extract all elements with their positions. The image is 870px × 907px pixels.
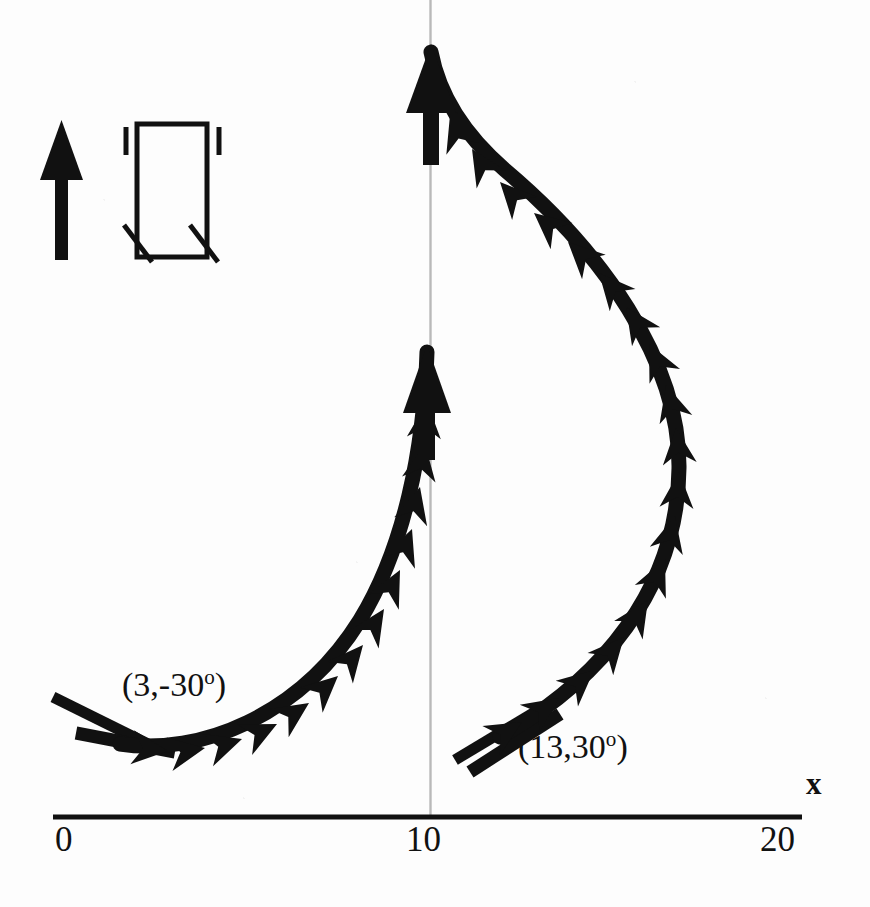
- x-tick-label-10: 10: [406, 822, 441, 857]
- arrowhead-chain-lower: [130, 401, 444, 771]
- left-annotation-prefix: (3,-30: [122, 666, 204, 703]
- figure-root: 0 10 20 x (3,-30o) (13,30o): [0, 0, 870, 907]
- right-annotation-prefix: (13,30: [518, 728, 606, 765]
- x-tick-label-0: 0: [55, 822, 73, 857]
- left-annotation-suffix: ): [215, 666, 226, 703]
- x-axis-label: x: [806, 768, 822, 799]
- degree-symbol-left: o: [204, 665, 215, 689]
- left-boundary-annotation: (3,-30o): [122, 668, 226, 702]
- right-annotation-suffix: ): [616, 728, 627, 765]
- degree-symbol-right: o: [606, 727, 617, 751]
- right-boundary-annotation: (13,30o): [518, 730, 628, 764]
- arrowhead-chain-upper: [419, 78, 697, 755]
- series-lower-branch: [53, 345, 451, 771]
- series-upper-branch: [406, 44, 697, 772]
- director-field-layer: [0, 0, 870, 907]
- x-tick-label-20: 20: [760, 822, 795, 857]
- terminal-arrow-lower: [403, 345, 451, 460]
